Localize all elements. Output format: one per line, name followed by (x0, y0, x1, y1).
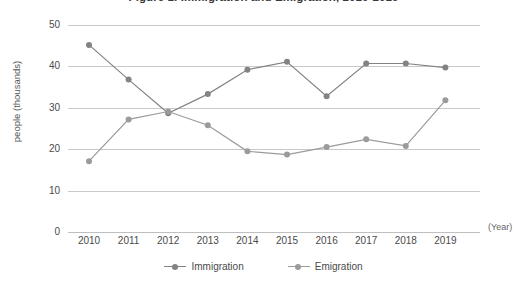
x-tick-2011: 2011 (118, 236, 140, 246)
data-point-2013 (205, 91, 211, 97)
data-point-2010 (86, 158, 92, 164)
series-line (89, 100, 445, 161)
data-point-2010 (86, 42, 92, 48)
x-tick-2019: 2019 (434, 236, 456, 246)
legend-label: Immigration (191, 261, 243, 272)
x-tick-2013: 2013 (197, 236, 219, 246)
series-emigration (86, 97, 448, 164)
data-point-2013 (205, 122, 211, 128)
legend-label: Emigration (315, 261, 363, 272)
data-point-2017 (363, 136, 369, 142)
data-point-2018 (403, 143, 409, 149)
data-point-2012 (165, 109, 171, 115)
data-point-2016 (324, 144, 330, 150)
data-point-2011 (126, 77, 132, 83)
x-tick-2017: 2017 (355, 236, 377, 246)
data-point-2017 (363, 61, 369, 67)
legend-marker-icon (164, 262, 186, 272)
data-point-2019 (442, 65, 448, 71)
data-point-2011 (126, 116, 132, 122)
data-point-2014 (244, 67, 250, 73)
data-point-2019 (442, 97, 448, 103)
series-line (89, 45, 445, 113)
x-axis-tick-labels: 2010201120122013201420152016201720182019 (0, 236, 527, 252)
x-tick-2010: 2010 (78, 236, 100, 246)
data-point-2015 (284, 152, 290, 158)
x-tick-2012: 2012 (157, 236, 179, 246)
x-tick-2016: 2016 (315, 236, 337, 246)
legend-item-immigration[interactable]: Immigration (164, 261, 243, 272)
x-tick-2015: 2015 (276, 236, 298, 246)
data-point-2014 (244, 148, 250, 154)
series-immigration (86, 42, 448, 116)
line-chart: Figure 1. Immigration and Emigration, 20… (0, 0, 527, 294)
data-point-2016 (324, 93, 330, 99)
data-point-2015 (284, 59, 290, 65)
x-axis-title: (Year) (488, 222, 512, 232)
chart-legend: ImmigrationEmigration (0, 261, 527, 272)
data-point-2018 (403, 61, 409, 67)
x-tick-2014: 2014 (236, 236, 258, 246)
legend-marker-icon (288, 262, 310, 272)
legend-item-emigration[interactable]: Emigration (288, 261, 363, 272)
x-tick-2018: 2018 (395, 236, 417, 246)
